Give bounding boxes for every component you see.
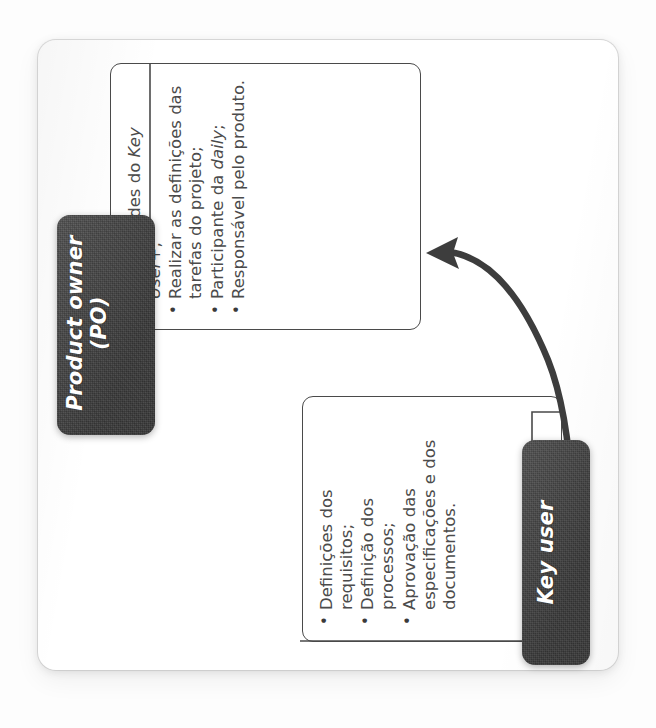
bullet-text: Responsável pelo produto. [229,80,248,299]
product-owner-label: Product owner (PO) [63,219,112,427]
product-owner-label-line2: (PO) [87,296,111,349]
product-owner-content-box: As atividades do Key User+; Realizar as … [110,63,421,330]
bullet-suffix: ; [208,124,227,130]
list-item: Realizar as definições das tarefas do pr… [166,78,206,316]
key-user-label: Key user [534,452,558,653]
bullet-emphasis: daily [208,130,227,170]
list-item: Participante da daily; [208,78,228,316]
product-owner-label-tab[interactable]: Product owner (PO) [57,215,155,435]
list-item: Responsável pelo produto. [229,78,249,316]
list-item: Definição dos processos; [358,409,398,627]
list-item: Aprovação das especificações e dos docum… [400,409,460,627]
product-owner-label-line1: Product owner [63,235,87,410]
key-user-label-tab[interactable]: Key user [522,440,590,665]
key-user-label-line1: Key user [534,500,558,604]
bullet-text: Participante da [208,169,227,299]
bullet-text: Realizar as definições das tarefas do pr… [166,86,205,299]
list-item: Definições dos requisitos; [317,409,357,627]
diagram-screenshot: As atividades do Key User+; Realizar as … [0,0,656,728]
bullet-text: Aprovação das especificações e dos docum… [400,440,459,610]
key-user-bullet-list: Definições dos requisitos; Definição dos… [317,409,460,627]
bullet-text: Definição dos processos; [358,498,397,610]
bullet-text: Definições dos requisitos; [317,489,356,610]
